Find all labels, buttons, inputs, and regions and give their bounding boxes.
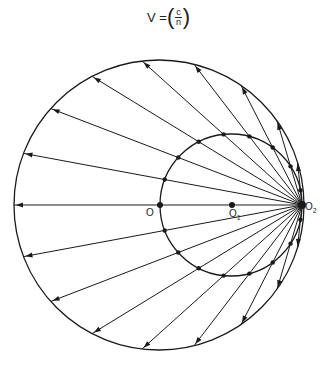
- arrowhead-icon: [94, 327, 101, 333]
- ray-diagram: [0, 0, 331, 367]
- intersection-dot: [288, 241, 292, 245]
- arrowhead-icon: [53, 109, 60, 114]
- arrowhead-icon: [195, 337, 201, 344]
- arrowhead-icon: [195, 66, 201, 73]
- intersection-dot: [247, 271, 251, 275]
- arrowhead-icon: [53, 296, 60, 301]
- intersection-dot: [163, 177, 167, 181]
- intersection-dot: [197, 140, 201, 144]
- ray-line: [241, 205, 302, 325]
- intersection-dot: [298, 188, 302, 192]
- intersection-dot: [176, 155, 180, 159]
- label-O: O: [146, 207, 154, 218]
- intersection-dot: [288, 164, 292, 168]
- intersection-dot: [271, 260, 275, 264]
- intersection-dot: [163, 228, 167, 232]
- intersection-dot: [221, 273, 225, 277]
- intersection-dot: [221, 132, 225, 136]
- arrowhead-icon: [16, 203, 23, 208]
- arrowhead-icon: [94, 77, 101, 83]
- intersection-dot: [298, 218, 302, 222]
- intersection-dot: [247, 134, 251, 138]
- arrowhead-icon: [25, 253, 32, 258]
- ray-line: [241, 85, 302, 205]
- intersection-dot: [197, 266, 201, 270]
- point-O: [157, 202, 163, 208]
- intersection-dot: [176, 250, 180, 254]
- intersection-dot: [271, 145, 275, 149]
- label-O1: O1: [229, 208, 241, 221]
- label-O2: O2: [305, 201, 317, 214]
- arrowhead-icon: [25, 153, 32, 158]
